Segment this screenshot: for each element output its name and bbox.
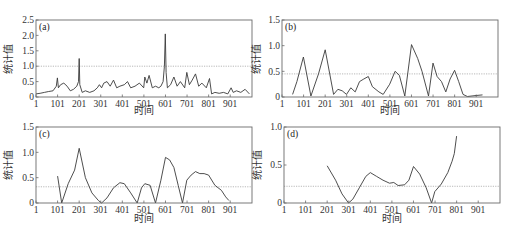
y-tick-label: 1.0 bbox=[22, 61, 34, 71]
y-tick-label: 1.5 bbox=[22, 122, 34, 132]
x-tick-label: 1 bbox=[34, 99, 39, 109]
x-tick-label: 101 bbox=[50, 99, 65, 109]
plot-frame bbox=[36, 127, 252, 203]
y-tick-label: 0.5 bbox=[22, 77, 34, 87]
data-series bbox=[58, 148, 229, 203]
x-tick-label: 701 bbox=[180, 99, 195, 109]
panel-d: 110120130140150160170180190100.51.0(d)时间… bbox=[251, 122, 500, 224]
y-tick-label: 0.5 bbox=[268, 67, 280, 77]
panel-label: (a) bbox=[39, 22, 50, 33]
y-tick-label: 0 bbox=[275, 92, 280, 102]
y-tick-label: 1.5 bbox=[22, 46, 34, 56]
panel-label: (c) bbox=[39, 129, 50, 140]
x-tick-label: 901 bbox=[471, 205, 486, 215]
x-tick-label: 901 bbox=[223, 99, 238, 109]
panel-label: (b) bbox=[285, 22, 296, 33]
x-tick-label: 301 bbox=[340, 99, 355, 109]
x-tick-label: 701 bbox=[180, 205, 195, 215]
y-tick-label: 0.5 bbox=[22, 173, 34, 183]
x-tick-label: 301 bbox=[342, 205, 357, 215]
x-tick-label: 401 bbox=[115, 205, 130, 215]
y-tick-label: 0 bbox=[29, 198, 34, 208]
x-axis-label: 时间 bbox=[134, 104, 154, 116]
x-tick-label: 601 bbox=[158, 205, 173, 215]
x-tick-label: 101 bbox=[50, 205, 65, 215]
x-tick-label: 401 bbox=[361, 99, 376, 109]
x-tick-label: 301 bbox=[94, 205, 109, 215]
x-tick-label: 801 bbox=[450, 205, 465, 215]
x-tick-label: 601 bbox=[406, 205, 421, 215]
y-tick-label: 0 bbox=[29, 92, 34, 102]
plot-frame bbox=[284, 127, 500, 203]
y-axis-label: 统计值 bbox=[250, 44, 262, 74]
y-tick-label: 2.5 bbox=[22, 15, 34, 25]
x-tick-label: 801 bbox=[202, 99, 217, 109]
x-tick-label: 901 bbox=[469, 99, 484, 109]
x-tick-label: 1 bbox=[34, 205, 39, 215]
x-tick-label: 601 bbox=[404, 99, 419, 109]
x-tick-label: 701 bbox=[428, 205, 443, 215]
x-axis-label: 时间 bbox=[382, 212, 402, 224]
y-tick-label: 1.0 bbox=[270, 122, 282, 132]
y-tick-label: 1.5 bbox=[268, 15, 280, 25]
panel-b: 110120130140150160170180190100.51.01.5(b… bbox=[250, 15, 498, 116]
x-tick-label: 401 bbox=[115, 99, 130, 109]
x-tick-label: 101 bbox=[296, 99, 311, 109]
panel-c: 110120130140150160170180190100.51.01.5(c… bbox=[2, 122, 252, 224]
x-tick-label: 201 bbox=[318, 99, 333, 109]
y-axis-label: 统计值 bbox=[2, 150, 14, 180]
x-tick-label: 101 bbox=[298, 205, 313, 215]
x-tick-label: 201 bbox=[320, 205, 335, 215]
x-tick-label: 701 bbox=[426, 99, 441, 109]
panel-a: 110120130140150160170180190100.51.01.52.… bbox=[2, 15, 252, 116]
x-tick-label: 601 bbox=[158, 99, 173, 109]
chart-figure: 110120130140150160170180190100.51.01.52.… bbox=[0, 0, 510, 241]
x-tick-label: 801 bbox=[448, 99, 463, 109]
x-tick-label: 401 bbox=[363, 205, 378, 215]
y-tick-label: 0.5 bbox=[270, 160, 282, 170]
x-tick-label: 201 bbox=[72, 99, 87, 109]
x-tick-label: 301 bbox=[94, 99, 109, 109]
x-axis-label: 时间 bbox=[380, 104, 400, 116]
y-axis-label: 统计值 bbox=[2, 44, 14, 74]
data-series bbox=[36, 34, 249, 94]
data-series bbox=[293, 45, 483, 97]
x-axis-label: 时间 bbox=[134, 212, 154, 224]
y-tick-label: 1.0 bbox=[268, 41, 280, 51]
y-tick-label: 2.0 bbox=[22, 31, 34, 41]
x-tick-label: 801 bbox=[202, 205, 217, 215]
x-tick-label: 1 bbox=[280, 99, 285, 109]
panel-label: (d) bbox=[287, 129, 298, 140]
x-tick-label: 1 bbox=[282, 205, 287, 215]
x-tick-label: 201 bbox=[72, 205, 87, 215]
x-tick-label: 901 bbox=[223, 205, 238, 215]
y-tick-label: 0 bbox=[277, 198, 282, 208]
y-axis-label: 统计值 bbox=[251, 150, 263, 180]
y-tick-label: 1.0 bbox=[22, 148, 34, 158]
data-series bbox=[327, 136, 456, 203]
